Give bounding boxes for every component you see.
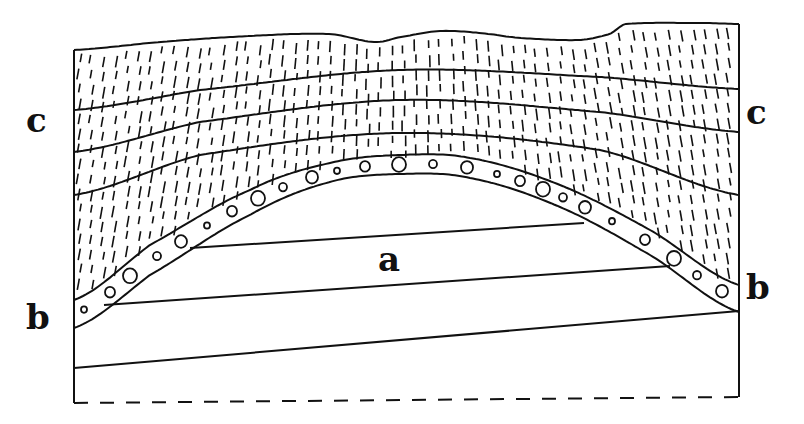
label-c-left: c: [26, 103, 47, 137]
cross-section-diagram: [0, 0, 804, 424]
bedding-lines: [74, 23, 739, 403]
label-c-right: c: [746, 95, 767, 129]
label-b-right: b: [746, 270, 770, 304]
label-b-left: b: [26, 300, 50, 334]
label-a: a: [378, 242, 400, 276]
